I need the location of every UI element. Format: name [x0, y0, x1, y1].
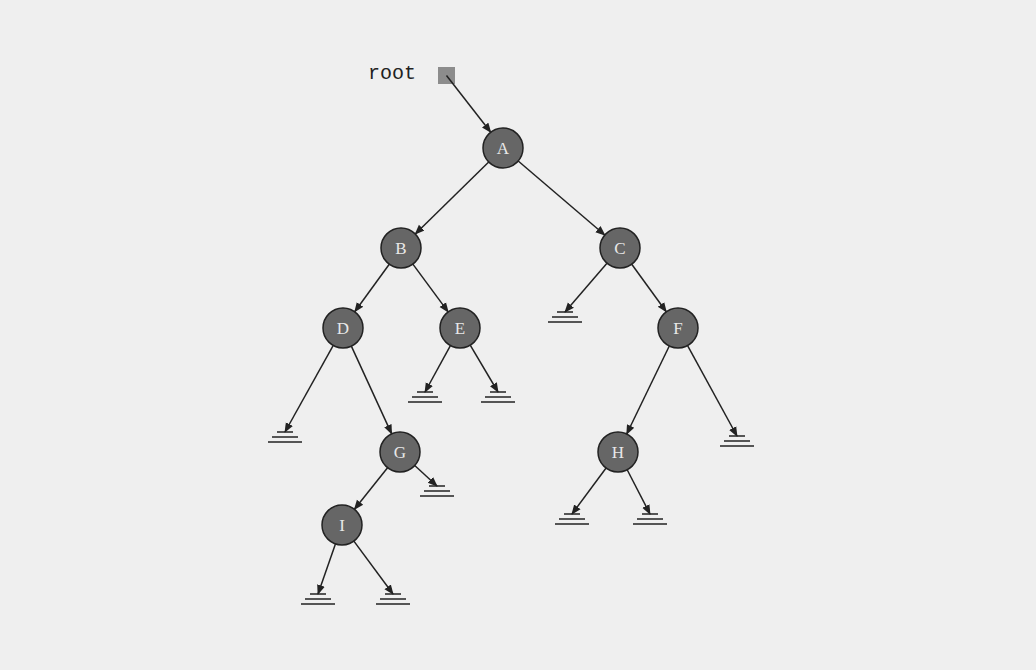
node-label: C — [614, 239, 625, 258]
tree-node-H: H — [598, 432, 638, 472]
edge-A-C — [518, 161, 605, 235]
node-label: I — [339, 516, 345, 535]
node-label: E — [455, 319, 465, 338]
edge-E-E_right — [470, 345, 498, 392]
tree-node-A: A — [483, 128, 523, 168]
edge-H-H_left — [572, 468, 606, 514]
null-ground-icon — [555, 514, 589, 524]
tree-node-B: B — [381, 228, 421, 268]
node-label: D — [337, 319, 349, 338]
edge-C-F — [632, 264, 667, 312]
edge-H-H_right — [627, 470, 650, 514]
tree-node-D: D — [323, 308, 363, 348]
edge-B-E — [413, 264, 448, 312]
node-label: A — [497, 139, 510, 158]
root-pointer-arrow — [447, 76, 491, 133]
edge-C-C_left — [565, 263, 607, 312]
tree-node-E: E — [440, 308, 480, 348]
nodes-layer: ABCDEFGHI — [322, 128, 698, 545]
node-label: H — [612, 443, 624, 462]
null-ground-icon — [420, 486, 454, 496]
node-label: B — [395, 239, 406, 258]
edge-G-I — [354, 468, 387, 510]
null-ground-icon — [301, 594, 335, 604]
null-ground-icon — [268, 432, 302, 442]
edge-F-F_right — [688, 346, 737, 436]
tree-node-F: F — [658, 308, 698, 348]
edge-I-I_right — [354, 541, 393, 594]
tree-node-I: I — [322, 505, 362, 545]
edge-D-D_left — [285, 345, 333, 432]
tree-canvas: ABCDEFGHI — [0, 0, 1036, 670]
null-markers-layer — [268, 312, 754, 604]
null-ground-icon — [633, 514, 667, 524]
null-ground-icon — [408, 392, 442, 402]
edge-E-E_left — [425, 346, 450, 392]
null-ground-icon — [481, 392, 515, 402]
edge-A-B — [415, 162, 488, 234]
null-ground-icon — [376, 594, 410, 604]
edge-D-G — [351, 346, 391, 434]
edge-F-H — [627, 346, 670, 434]
node-label: G — [394, 443, 406, 462]
tree-node-G: G — [380, 432, 420, 472]
null-ground-icon — [720, 436, 754, 446]
node-label: F — [673, 319, 682, 338]
tree-node-C: C — [600, 228, 640, 268]
null-ground-icon — [548, 312, 582, 322]
edge-I-I_left — [318, 544, 335, 594]
edge-G-G_right — [415, 466, 437, 486]
edge-B-D — [355, 264, 390, 312]
